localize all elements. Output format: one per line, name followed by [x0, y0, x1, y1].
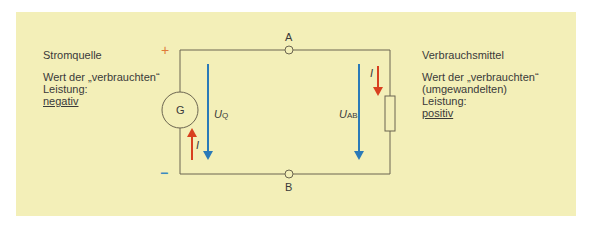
load-title: Verbrauchsmittel [422, 49, 504, 61]
resistor-icon [385, 96, 395, 131]
load-value: positiv [422, 107, 453, 119]
terminal-b-icon [285, 170, 293, 178]
plus-sign: + [161, 44, 169, 56]
current-label-load: I [370, 67, 373, 79]
source-value: negativ [43, 95, 78, 107]
voltage-uq-label: UQ [214, 108, 228, 122]
source-title: Stromquelle [43, 49, 102, 61]
generator-label: G [176, 104, 185, 116]
voltage-uq-arrow-icon [203, 64, 213, 160]
minus-sign: − [160, 167, 168, 179]
load-line2: (umgewandelten) [422, 83, 507, 95]
load-line1: Wert der „verbrauchten“ [422, 71, 539, 83]
current-label-source: I [196, 139, 199, 151]
terminal-b-label: B [285, 181, 292, 193]
source-line1: Wert der „verbrauchten“ [43, 71, 160, 83]
load-line3: Leistung: [422, 95, 467, 107]
current-load-arrow-icon [373, 66, 383, 96]
voltage-uab-label: UAB [339, 108, 358, 122]
source-line2: Leistung: [43, 83, 88, 95]
terminal-a-label: A [285, 31, 292, 43]
terminal-a-icon [285, 46, 293, 54]
circuit-diagram [0, 0, 593, 228]
